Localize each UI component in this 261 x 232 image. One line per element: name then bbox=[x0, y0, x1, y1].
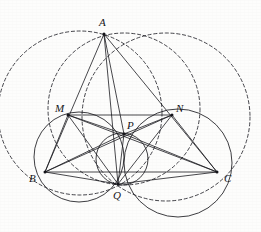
segment-BQ bbox=[45, 172, 118, 184]
point-label-A: A bbox=[99, 17, 106, 28]
segment-MP bbox=[68, 115, 124, 134]
point-label-P: P bbox=[127, 120, 134, 131]
point-label-C: C bbox=[224, 173, 231, 184]
segment-CQ bbox=[118, 172, 217, 184]
vertex-dot-Q bbox=[117, 183, 120, 186]
segment-AP bbox=[104, 34, 124, 134]
circumcircle-ABQ bbox=[0, 31, 162, 195]
segments-group bbox=[45, 34, 217, 184]
geometry-canvas bbox=[0, 0, 261, 232]
vertex-dot-C bbox=[216, 171, 219, 174]
vertex-dot-A bbox=[103, 33, 106, 36]
segment-CP bbox=[124, 134, 217, 172]
segment-AB bbox=[45, 34, 104, 172]
point-label-Q: Q bbox=[113, 190, 121, 201]
segment-BP bbox=[45, 134, 124, 172]
vertex-dot-M bbox=[67, 114, 70, 117]
point-label-B: B bbox=[29, 173, 36, 184]
vertex-dot-P bbox=[123, 133, 126, 136]
point-label-N: N bbox=[176, 103, 183, 114]
geometry-figure: AMNPBCQ bbox=[0, 0, 261, 232]
segment-AQ bbox=[104, 34, 118, 184]
vertex-dot-N bbox=[171, 114, 174, 117]
vertex-dot-B bbox=[44, 171, 47, 174]
point-label-M: M bbox=[55, 103, 64, 114]
